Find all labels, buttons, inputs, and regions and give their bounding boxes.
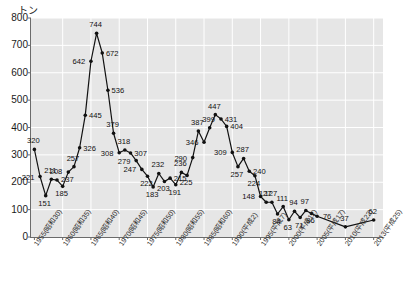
data-point-marker [219, 117, 223, 121]
y-axis-tick: 400 [2, 122, 28, 133]
data-point-marker [129, 151, 133, 155]
data-point-marker [344, 225, 348, 229]
data-point-marker [281, 205, 285, 209]
y-axis-tick: 700 [2, 39, 28, 50]
data-point-marker [38, 175, 42, 179]
data-point-marker [72, 165, 76, 169]
data-point-marker [372, 218, 376, 222]
data-point-marker [225, 125, 229, 129]
data-label: 224 [248, 180, 261, 188]
data-label: 308 [101, 150, 114, 158]
data-label: 279 [118, 158, 131, 166]
y-axis-tick: 800 [2, 12, 28, 23]
data-label: 37 [340, 215, 348, 223]
data-label: 222 [140, 180, 153, 188]
data-label: 447 [208, 103, 221, 111]
data-label: 320 [27, 138, 40, 146]
data-point-marker [174, 183, 178, 187]
data-point-marker [231, 151, 235, 155]
y-axis-tick: 600 [2, 67, 28, 78]
data-label: 672 [106, 50, 119, 58]
data-label: 290 [174, 155, 187, 163]
data-label: 76 [323, 213, 331, 221]
data-label: 62 [368, 208, 376, 216]
data-label: 307 [134, 150, 147, 158]
data-point-marker [117, 151, 121, 155]
y-axis-tick: 0 [2, 231, 28, 242]
data-label: 63 [284, 224, 292, 232]
data-point-marker [270, 200, 274, 204]
y-axis-tick-labels: 0100200300400500600700800 [0, 0, 28, 306]
data-point-marker [202, 140, 206, 144]
data-point-marker [134, 159, 138, 163]
data-label: 287 [236, 147, 249, 155]
data-label: 237 [61, 176, 74, 184]
data-point-marker [78, 146, 82, 150]
data-label: 399 [202, 116, 215, 124]
data-label: 247 [123, 167, 136, 175]
data-point-marker [50, 177, 54, 181]
data-point-marker [168, 176, 172, 180]
data-point-marker [247, 170, 251, 174]
data-point-marker [293, 209, 297, 213]
data-point-marker [197, 129, 201, 133]
data-label: 744 [89, 22, 102, 30]
data-point-marker [95, 32, 99, 36]
data-point-marker [123, 148, 127, 152]
data-point-marker [33, 148, 37, 152]
data-label: 127 [265, 190, 278, 198]
data-label: 318 [118, 138, 131, 146]
data-point-marker [140, 168, 144, 172]
data-label: 536 [112, 87, 125, 95]
data-label: 326 [83, 145, 96, 153]
data-point-marker [55, 178, 59, 182]
data-label: 232 [151, 162, 164, 170]
data-label: 94 [289, 199, 297, 207]
data-label: 86 [306, 218, 314, 226]
data-point-marker [208, 126, 212, 130]
data-point-marker [67, 170, 71, 174]
data-label: 97 [301, 199, 309, 207]
data-label: 257 [67, 155, 80, 163]
data-point-marker [44, 194, 48, 198]
data-label: 257 [231, 171, 244, 179]
data-point-marker [287, 218, 291, 222]
data-point-marker [191, 156, 195, 160]
data-label: 445 [89, 112, 102, 120]
data-label: 379 [106, 121, 119, 129]
data-point-marker [61, 185, 65, 189]
data-label: 642 [73, 58, 86, 66]
data-label: 225 [180, 180, 193, 188]
data-point-marker [236, 165, 240, 169]
data-label: 185 [55, 191, 68, 199]
data-point-marker [242, 157, 246, 161]
data-label: 151 [38, 200, 51, 208]
data-label: 111 [276, 195, 288, 203]
data-point-marker [146, 174, 150, 178]
data-label: 240 [253, 169, 266, 177]
data-point-marker [83, 113, 87, 117]
y-axis-tick: 100 [2, 204, 28, 215]
data-label: 191 [168, 189, 181, 197]
chart-caption [6, 296, 382, 306]
data-point-marker [89, 59, 93, 63]
data-label: 71 [295, 222, 303, 230]
data-point-marker [264, 200, 268, 204]
data-label: 84 [272, 218, 280, 226]
plot-area [30, 18, 383, 238]
data-point-marker [106, 88, 110, 92]
data-label: 346 [186, 139, 199, 147]
data-label: 148 [242, 194, 255, 202]
data-point-marker [163, 180, 167, 184]
line-series-svg [31, 18, 383, 237]
y-axis-tick: 500 [2, 94, 28, 105]
data-label: 221 [22, 174, 35, 182]
data-point-marker [157, 172, 161, 176]
data-label: 404 [230, 124, 243, 132]
data-label: 309 [214, 150, 227, 158]
data-point-marker [100, 51, 104, 55]
data-point-marker [112, 131, 116, 135]
y-axis-tick: 300 [2, 149, 28, 160]
